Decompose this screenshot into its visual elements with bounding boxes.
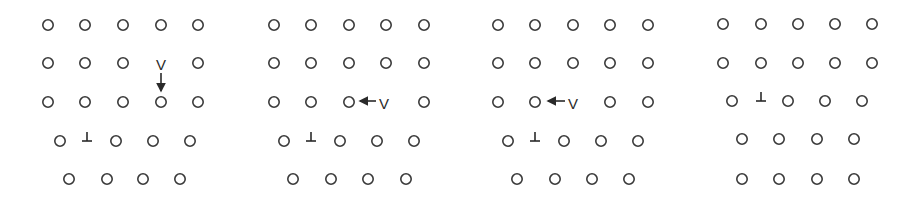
- atom-circle: [156, 20, 166, 30]
- atom-circle: [148, 136, 158, 146]
- atom-circle: [793, 19, 803, 29]
- atom-circle: [372, 136, 382, 146]
- atom-circle: [419, 20, 429, 30]
- vacancy-label: V: [379, 95, 389, 112]
- atom-circle: [849, 174, 859, 184]
- atom-circle: [409, 136, 419, 146]
- atom-circle: [550, 174, 560, 184]
- atom-circle: [605, 97, 615, 107]
- atom-circle: [381, 58, 391, 68]
- atom-circle: [643, 20, 653, 30]
- atom-circle: [43, 97, 53, 107]
- atom-circle: [419, 97, 429, 107]
- atom-circle: [857, 96, 867, 106]
- atom-circle: [587, 174, 597, 184]
- atom-circle: [820, 96, 830, 106]
- atom-circle: [279, 136, 289, 146]
- atom-circle: [306, 20, 316, 30]
- atom-circle: [43, 58, 53, 68]
- vacancy-label: V: [156, 56, 166, 73]
- atom-circle: [568, 58, 578, 68]
- atom-circle: [727, 96, 737, 106]
- atom-circle: [812, 134, 822, 144]
- atom-circle: [633, 136, 643, 146]
- atom-circle: [568, 20, 578, 30]
- atom-circle: [624, 174, 634, 184]
- atom-circle: [138, 174, 148, 184]
- atom-circle: [193, 20, 203, 30]
- atom-circle: [530, 20, 540, 30]
- atom-circle: [643, 58, 653, 68]
- atom-circle: [326, 174, 336, 184]
- atom-circle: [80, 20, 90, 30]
- atom-circle: [605, 20, 615, 30]
- atom-circle: [605, 58, 615, 68]
- lattice-layer: VVV: [43, 19, 877, 184]
- atom-circle: [419, 58, 429, 68]
- atom-circle: [756, 58, 766, 68]
- atom-circle: [118, 58, 128, 68]
- atom-circle: [596, 136, 606, 146]
- atom-circle: [55, 136, 65, 146]
- atom-circle: [344, 20, 354, 30]
- atom-circle: [269, 20, 279, 30]
- atom-circle: [193, 58, 203, 68]
- atom-circle: [530, 58, 540, 68]
- atom-circle: [335, 136, 345, 146]
- atom-circle: [175, 174, 185, 184]
- atom-circle: [493, 97, 503, 107]
- atom-circle: [269, 58, 279, 68]
- atom-circle: [867, 58, 877, 68]
- atom-circle: [288, 174, 298, 184]
- atom-circle: [783, 96, 793, 106]
- atom-circle: [111, 136, 121, 146]
- atom-circle: [269, 97, 279, 107]
- dislocation-symbol: [530, 132, 540, 141]
- atom-circle: [718, 58, 728, 68]
- dislocation-symbol: [306, 132, 316, 141]
- atom-circle: [344, 97, 354, 107]
- atom-circle: [118, 20, 128, 30]
- atom-circle: [774, 174, 784, 184]
- atom-circle: [64, 174, 74, 184]
- atom-circle: [306, 97, 316, 107]
- atom-circle: [381, 20, 391, 30]
- dislocation-symbol: [82, 132, 92, 141]
- atom-circle: [737, 174, 747, 184]
- atom-circle: [102, 174, 112, 184]
- atom-circle: [718, 19, 728, 29]
- atom-circle: [503, 136, 513, 146]
- atom-circle: [401, 174, 411, 184]
- atom-circle: [812, 174, 822, 184]
- atom-circle: [185, 136, 195, 146]
- vacancy-label: V: [568, 95, 578, 112]
- atom-circle: [737, 134, 747, 144]
- atom-circle: [43, 20, 53, 30]
- atom-circle: [80, 58, 90, 68]
- atom-circle: [793, 58, 803, 68]
- atom-circle: [643, 97, 653, 107]
- atom-circle: [559, 136, 569, 146]
- atom-circle: [756, 19, 766, 29]
- dislocation-climb-diagram: VVV: [0, 0, 916, 201]
- atom-circle: [306, 58, 316, 68]
- atom-circle: [193, 97, 203, 107]
- atom-circle: [363, 174, 373, 184]
- atom-circle: [493, 58, 503, 68]
- atom-circle: [156, 97, 166, 107]
- atom-circle: [867, 19, 877, 29]
- atom-circle: [493, 20, 503, 30]
- atom-circle: [344, 58, 354, 68]
- atom-circle: [830, 19, 840, 29]
- atom-circle: [830, 58, 840, 68]
- atom-circle: [512, 174, 522, 184]
- atom-circle: [849, 134, 859, 144]
- atom-circle: [118, 97, 128, 107]
- dislocation-symbol: [756, 92, 766, 101]
- panel-3: V: [493, 20, 653, 184]
- atom-circle: [530, 97, 540, 107]
- atom-circle: [80, 97, 90, 107]
- panel-2: V: [269, 20, 429, 184]
- atom-circle: [774, 134, 784, 144]
- panel-4: [718, 19, 877, 184]
